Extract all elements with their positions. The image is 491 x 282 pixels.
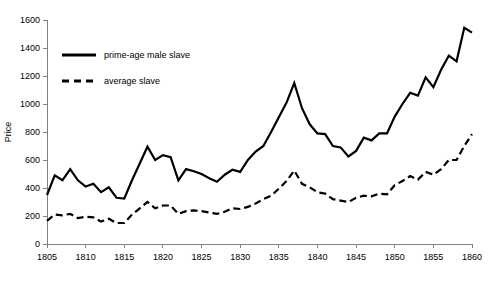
x-axis-ticks: 1805181018151820182518301835184018451850…	[37, 244, 482, 262]
y-tick-label: 1200	[20, 71, 40, 81]
y-tick-label: 1600	[20, 15, 40, 25]
x-tick-label: 1850	[385, 252, 405, 262]
y-tick-label: 600	[25, 155, 40, 165]
x-tick-label: 1835	[269, 252, 289, 262]
y-tick-label: 200	[25, 211, 40, 221]
legend-label: average slave	[104, 76, 160, 86]
x-tick-label: 1840	[307, 252, 327, 262]
x-tick-label: 1855	[423, 252, 443, 262]
slave-price-chart: 02004006008001000120014001600 1805181018…	[0, 0, 491, 282]
x-tick-label: 1810	[76, 252, 96, 262]
y-axis-ticks: 02004006008001000120014001600	[20, 15, 47, 249]
x-tick-label: 1820	[153, 252, 173, 262]
legend-label: prime-age male slave	[104, 50, 190, 60]
y-axis-title: Price	[3, 122, 13, 143]
y-tick-label: 400	[25, 183, 40, 193]
series-line-dashed	[47, 134, 472, 223]
y-tick-label: 0	[35, 239, 40, 249]
y-tick-label: 1000	[20, 99, 40, 109]
x-tick-label: 1830	[230, 252, 250, 262]
x-tick-label: 1805	[37, 252, 57, 262]
x-tick-label: 1825	[192, 252, 212, 262]
x-tick-label: 1860	[462, 252, 482, 262]
x-tick-label: 1815	[114, 252, 134, 262]
y-tick-label: 1400	[20, 43, 40, 53]
chart-legend: prime-age male slaveaverage slave	[62, 50, 190, 86]
y-tick-label: 800	[25, 127, 40, 137]
x-tick-label: 1845	[346, 252, 366, 262]
chart-plot-area: 02004006008001000120014001600 1805181018…	[0, 0, 491, 282]
